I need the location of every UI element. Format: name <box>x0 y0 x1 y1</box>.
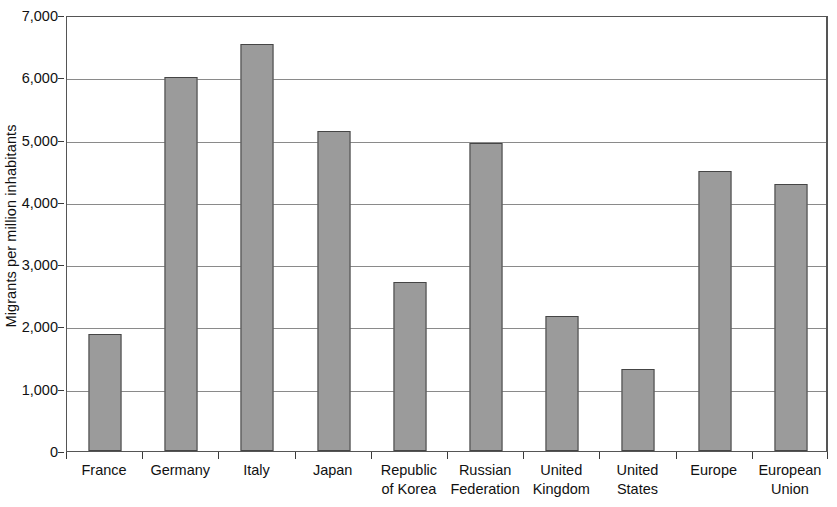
y-axis-tick-label: 0 <box>50 445 58 460</box>
bar-slot <box>448 17 524 451</box>
x-axis-ticks <box>66 452 828 460</box>
bar <box>393 282 426 451</box>
bar-slot <box>372 17 448 451</box>
bars-layer <box>67 17 826 451</box>
y-axis-tick-mark <box>58 16 64 17</box>
y-axis-tick-mark <box>58 452 64 453</box>
y-axis-title-text: Migrants per million inhabitants <box>3 124 19 327</box>
x-axis-category-label: UnitedStates <box>599 461 675 499</box>
x-axis-tick-mark <box>676 452 677 459</box>
x-axis-category-label: RussianFederation <box>447 461 523 499</box>
bar <box>470 143 503 451</box>
y-axis-tick-mark <box>58 327 64 328</box>
x-axis-category-label-line2: of Korea <box>371 480 447 499</box>
y-axis-tick-mark <box>58 265 64 266</box>
y-axis-tick-mark <box>58 390 64 391</box>
y-axis-tick-label: 2,000 <box>22 320 58 335</box>
x-axis-category-label-line1: Italy <box>243 462 270 478</box>
bar-slot <box>524 17 600 451</box>
x-axis-category-label: Republicof Korea <box>371 461 447 499</box>
bar-slot <box>296 17 372 451</box>
bar <box>165 77 198 451</box>
x-axis-category-label-line2: States <box>599 480 675 499</box>
x-axis-category-label: Japan <box>295 461 371 480</box>
bar <box>622 369 655 451</box>
bar <box>241 44 274 451</box>
x-axis-category-label: Italy <box>218 461 294 480</box>
bar <box>89 334 122 451</box>
y-axis-tick-label: 4,000 <box>22 196 58 211</box>
bar <box>317 131 350 451</box>
y-axis-tick-label: 6,000 <box>22 71 58 86</box>
bar-slot <box>143 17 219 451</box>
x-axis-category-label-line1: United <box>540 462 582 478</box>
y-axis-title: Migrants per million inhabitants <box>0 0 22 452</box>
x-axis-tick-mark <box>218 452 219 459</box>
x-axis-category-label-line1: France <box>82 462 127 478</box>
y-axis-tick-label: 7,000 <box>22 9 58 24</box>
x-axis-tick-mark <box>599 452 600 459</box>
x-axis-tick-mark <box>295 452 296 459</box>
x-axis-category-label-line1: Russian <box>459 462 511 478</box>
bar-slot <box>677 17 753 451</box>
x-axis-category-label-line1: Germany <box>150 462 210 478</box>
bar-slot <box>600 17 676 451</box>
bar <box>698 171 731 451</box>
x-axis-category-label: EuropeanUnion <box>752 461 828 499</box>
bar-chart: Migrants per million inhabitants 01,0002… <box>0 0 837 507</box>
y-axis-tick-mark <box>58 141 64 142</box>
y-axis-tick-label: 3,000 <box>22 258 58 273</box>
x-axis-category-label-line2: Federation <box>447 480 523 499</box>
plot-area <box>66 16 828 452</box>
y-axis-tick-label: 1,000 <box>22 382 58 397</box>
x-axis-tick-mark <box>447 452 448 459</box>
x-axis-tick-mark <box>827 452 828 459</box>
x-axis-category-label-line1: Republic <box>381 462 437 478</box>
x-axis-category-label: Europe <box>676 461 752 480</box>
bar-slot <box>67 17 143 451</box>
x-axis-tick-mark <box>523 452 524 459</box>
x-axis-category-label: Germany <box>142 461 218 480</box>
x-axis-tick-mark <box>371 452 372 459</box>
x-axis-category-label-line2: Kingdom <box>523 480 599 499</box>
x-axis-category-labels: FranceGermanyItalyJapanRepublicof KoreaR… <box>66 461 828 507</box>
y-axis-tick-mark <box>58 78 64 79</box>
x-axis-category-label: France <box>66 461 142 480</box>
x-axis-category-label-line1: Europe <box>690 462 737 478</box>
x-axis-category-label-line2: Union <box>752 480 828 499</box>
x-axis-tick-mark <box>752 452 753 459</box>
bar <box>774 184 807 451</box>
bar <box>546 316 579 451</box>
y-axis-tick-label: 5,000 <box>22 133 58 148</box>
y-axis-tick-labels: 01,0002,0003,0004,0005,0006,0007,000 <box>22 0 64 470</box>
bar-slot <box>219 17 295 451</box>
x-axis-category-label-line1: United <box>617 462 659 478</box>
x-axis-tick-mark <box>142 452 143 459</box>
y-axis-tick-mark <box>58 203 64 204</box>
bar-slot <box>753 17 829 451</box>
x-axis-category-label: UnitedKingdom <box>523 461 599 499</box>
x-axis-tick-mark <box>66 452 67 459</box>
x-axis-category-label-line1: Japan <box>313 462 353 478</box>
x-axis-category-label-line1: European <box>758 462 821 478</box>
